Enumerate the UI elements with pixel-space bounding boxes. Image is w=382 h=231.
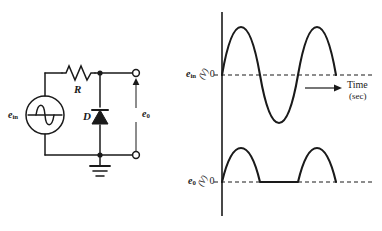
input-axis-label: ein (V) 0 <box>186 68 215 79</box>
output-axis-zero: 0 <box>209 175 214 186</box>
output-axis-symbol: e0 <box>188 175 196 186</box>
time-axis-label: Time <box>347 80 368 90</box>
input-axis-unit: (V) <box>196 67 210 81</box>
output-axis-unit: (V) <box>196 174 210 188</box>
output-waveform-curve <box>222 148 336 182</box>
right-arrow-icon <box>334 85 342 92</box>
input-axis-symbol: ein <box>186 68 196 79</box>
figure-root: R D ein e0 ein (V) 0 e0 (V) 0 Time (sec) <box>0 0 382 231</box>
output-axis-label: e0 (V) 0 <box>188 175 214 186</box>
time-axis-unit: (sec) <box>349 92 367 101</box>
waveform-plots <box>0 0 382 231</box>
input-axis-zero: 0 <box>210 68 215 79</box>
